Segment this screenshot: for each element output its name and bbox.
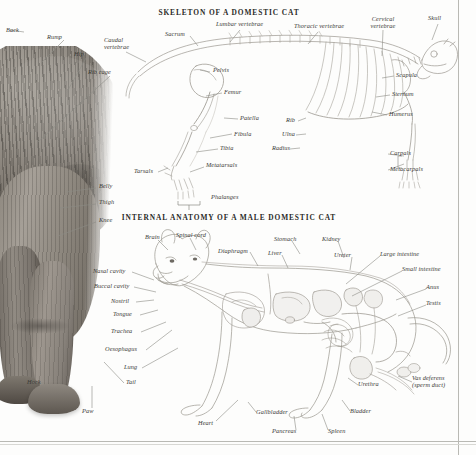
skeleton-label-lumbar-vertebrae: Lumbar vertebrae bbox=[216, 20, 263, 27]
skeleton-label-pelvis: Pelvis bbox=[213, 66, 229, 73]
skeleton-label-humerus: Humerus bbox=[389, 110, 413, 117]
internal-label-spinal-cord: Spinal cord bbox=[176, 231, 206, 238]
internal-label-vas-deferens: Vas deferens (sperm duct) bbox=[412, 374, 446, 388]
internal-label-bladder: Bladder bbox=[350, 407, 371, 414]
skeleton-label-thoracic-vertebrae: Thoracic vertebrae bbox=[294, 22, 344, 29]
skeleton-label-metatarsals: Metatarsals bbox=[206, 161, 237, 168]
photo-label-rump: Rump bbox=[47, 33, 62, 40]
skeleton-label-femur: Femur bbox=[224, 88, 241, 95]
internal-label-anus: Anus bbox=[426, 283, 439, 290]
internal-label-lung: Lung bbox=[124, 363, 137, 370]
skeleton-label-phalanges: Phalanges bbox=[211, 193, 238, 200]
skeleton-label-sternum: Sternum bbox=[392, 90, 414, 97]
photo-label-hip: Hip bbox=[74, 50, 84, 57]
internal-label-small-intestine: Small intestine bbox=[402, 265, 441, 272]
skeleton-label-metacarpals: Metacarpals bbox=[390, 165, 423, 172]
skeleton-label-sacrum: Sacrum bbox=[165, 30, 185, 37]
photo-label-paw: Paw bbox=[82, 407, 94, 414]
internal-label-heart: Heart bbox=[198, 419, 213, 426]
internal-label-oesophagus: Oesophagus bbox=[105, 345, 137, 352]
skeleton-label-patella: Patella bbox=[240, 114, 259, 121]
photo-label-knee: Knee bbox=[99, 216, 112, 223]
internal-label-pancreas: Pancreas bbox=[272, 427, 296, 434]
internal-label-liver: Liver bbox=[268, 249, 282, 256]
photo-label-belly: Belly bbox=[99, 182, 112, 189]
internal-label-stomach: Stomach bbox=[274, 235, 296, 242]
internal-label-large-intestine: Large intestine bbox=[380, 250, 419, 257]
skeleton-label-radius: Radius bbox=[272, 144, 290, 151]
photo-label-back: Back bbox=[6, 26, 19, 33]
skeleton-label-skull: Skull bbox=[428, 14, 441, 21]
internal-label-kidney: Kidney bbox=[322, 235, 340, 242]
internal-label-nostril: Nostril bbox=[111, 297, 129, 304]
internal-label-testis: Testis bbox=[426, 299, 441, 306]
skeleton-label-cervical-vertebrae: Cervical vertebrae bbox=[366, 15, 400, 29]
internal-label-urethra: Urethra bbox=[358, 380, 379, 387]
photo-label-tail: Tail bbox=[126, 378, 136, 385]
skeleton-label-tarsals: Tarsals bbox=[134, 167, 153, 174]
internal-label-ureter: Ureter bbox=[334, 251, 351, 258]
internal-label-diaphragm: Diaphragm bbox=[218, 247, 248, 254]
internal-label-buccal-cavity: Buccal cavity bbox=[94, 282, 129, 289]
leader-lines bbox=[0, 0, 476, 455]
page-rule-right bbox=[458, 0, 459, 455]
skeleton-label-fibula: Fibula bbox=[234, 130, 251, 137]
skeleton-label-ulna: Ulna bbox=[282, 130, 295, 137]
internal-label-spleen: Spleen bbox=[328, 427, 345, 434]
photo-label-thigh: Thigh bbox=[99, 198, 114, 205]
photo-label-hock: Hock bbox=[27, 378, 41, 385]
internal-label-brain: Brain bbox=[145, 233, 160, 240]
internal-label-tongue: Tongue bbox=[113, 310, 132, 317]
anatomy-page: SKELETON OF A DOMESTIC CAT INTERNAL ANAT… bbox=[0, 0, 476, 455]
internal-label-trachea: Trachea bbox=[111, 327, 132, 334]
skeleton-label-rib: Rib bbox=[286, 116, 295, 123]
internal-label-nasal-cavity: Nasal cavity bbox=[93, 267, 126, 274]
internal-label-gallbladder: Gallbladder bbox=[256, 408, 288, 415]
page-rule-bottom-secondary bbox=[0, 444, 476, 445]
skeleton-label-carpals: Carpals bbox=[390, 149, 411, 156]
skeleton-label-caudal-vertebrae: Caudal vertebrae bbox=[104, 36, 138, 50]
skeleton-label-tibia: Tibia bbox=[220, 144, 233, 151]
photo-label-rib-cage: Rib cage bbox=[88, 68, 111, 75]
page-rule-bottom bbox=[0, 441, 476, 442]
skeleton-label-scapula: Scapula bbox=[396, 71, 417, 78]
